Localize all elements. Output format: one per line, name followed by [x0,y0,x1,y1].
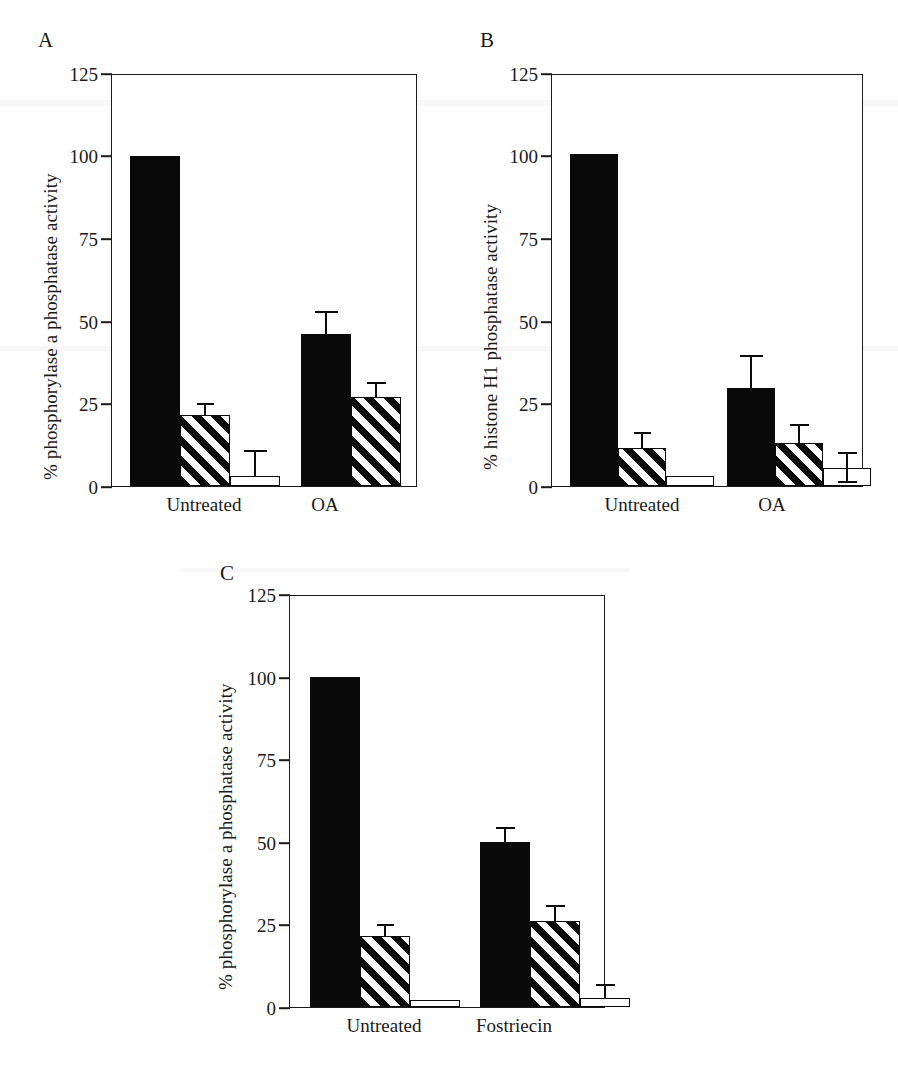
panel-a-bar-oa-solid [301,334,351,486]
panel-c-group-label-untreated: Untreated [347,1015,422,1037]
panel-a-bar-untreated-solid [130,156,180,486]
panel-b-group-label-oa: OA [758,494,785,516]
panel-a-ytick-75: 75 [50,230,98,249]
panel-a-letter: A [38,30,53,51]
panel-b-plot-area [552,75,862,486]
panel-b-ytick-25: 25 [490,395,538,414]
panel-c-bar-fostriecin-solid [480,842,530,1007]
panel-b-bar-oa-hatch [775,443,823,486]
panel-c-ytick-50: 50 [228,834,276,853]
figure-root: A % phosphorylase a phosphatase activity… [0,0,898,1065]
panel-b-ytick-100: 100 [490,147,538,166]
panel-b-plot-frame [551,74,863,487]
panel-a-ytick-25: 25 [50,395,98,414]
panel-c-plot-area [290,596,604,1007]
panel-a-bar-untreated-hatch [180,415,230,486]
panel-c-ytick-125: 125 [228,586,276,605]
panel-b-bar-untreated-open [666,476,714,486]
panel-a-ytick-100: 100 [50,147,98,166]
panel-c-ytick-100: 100 [228,669,276,688]
panel-a-plot-area [112,75,416,486]
panel-a-ytick-0: 0 [50,478,98,497]
panel-c-group-label-fostriecin: Fostriecin [476,1015,552,1037]
panel-b-ytick-75: 75 [490,230,538,249]
panel-c-letter: C [220,563,234,584]
panel-a-ytick-125: 125 [50,65,98,84]
panel-c-ytick-25: 25 [228,916,276,935]
panel-a-group-label-oa: OA [311,494,338,516]
panel-b: B % histone H1 phosphatase activity 125 … [450,0,898,540]
panel-b-letter: B [480,30,494,51]
panel-b-ytick-125: 125 [490,65,538,84]
panel-c: C % phosphorylase a phosphatase activity… [180,545,650,1065]
panel-a-bar-untreated-open [230,476,280,486]
panel-b-bar-untreated-hatch [618,448,666,486]
panel-c-bar-untreated-open [410,1000,460,1007]
panel-c-plot-frame [289,595,605,1008]
panel-b-ytick-50: 50 [490,313,538,332]
panel-c-ytick-0: 0 [228,999,276,1018]
panel-b-group-label-untreated: Untreated [605,494,680,516]
panel-c-ytick-75: 75 [228,751,276,770]
panel-c-bar-fostriecin-hatch [530,921,580,1007]
panel-a-bar-oa-hatch [351,397,401,486]
panel-a: A % phosphorylase a phosphatase activity… [0,0,450,540]
panel-a-plot-frame [111,74,417,487]
panel-c-bar-untreated-hatch [360,936,410,1007]
panel-c-bar-fostriecin-open [580,998,630,1007]
panel-a-ytick-50: 50 [50,313,98,332]
panel-b-bar-oa-solid [727,388,775,486]
panel-a-group-label-untreated: Untreated [167,494,242,516]
panel-c-bar-untreated-solid [310,677,360,1007]
panel-b-ytick-0: 0 [490,478,538,497]
panel-b-bar-untreated-solid [570,154,618,486]
